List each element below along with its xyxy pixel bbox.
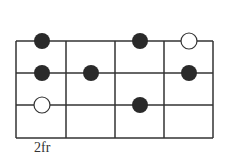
fretboard-grid [16, 41, 213, 138]
filled-note-dot [34, 33, 50, 49]
open-note-dot [181, 33, 197, 49]
filled-note-dot [132, 97, 148, 113]
filled-note-dot [83, 65, 99, 81]
open-note-dot [34, 97, 50, 113]
fret-position-label: 2fr [34, 140, 50, 156]
filled-note-dot [181, 65, 197, 81]
filled-note-dot [132, 33, 148, 49]
filled-note-dot [34, 65, 50, 81]
